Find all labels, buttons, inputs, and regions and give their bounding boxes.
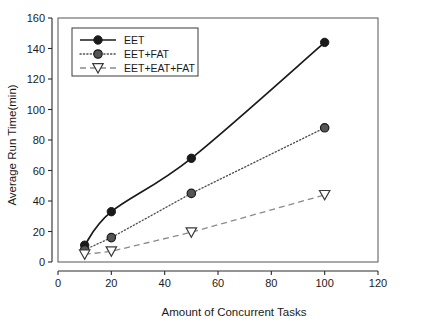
data-point-marker (320, 124, 328, 132)
x-tick-label: 0 (55, 277, 61, 289)
x-tick-label: 80 (265, 277, 277, 289)
legend-label: EET+FAT (124, 48, 170, 60)
y-tick-label: 100 (27, 104, 45, 116)
data-point-marker (319, 190, 329, 199)
data-point-marker (107, 207, 115, 215)
y-tick-label: 80 (33, 134, 45, 146)
y-tick-label: 120 (27, 73, 45, 85)
series-markers-3 (79, 190, 329, 259)
x-tick-label: 60 (212, 277, 224, 289)
data-point-marker (94, 50, 102, 58)
y-tick-label: 0 (39, 256, 45, 268)
chart-figure: 020406080100120140160 020406080100120 EE… (0, 0, 427, 324)
x-tick-label: 100 (315, 277, 333, 289)
y-axis: 020406080100120140160 (27, 12, 52, 268)
y-tick-label: 60 (33, 165, 45, 177)
x-tick-label: 20 (105, 277, 117, 289)
legend-item-3[interactable]: EET+EAT+FAT (80, 62, 195, 74)
legend: EETEET+FATEET+EAT+FAT (72, 28, 198, 76)
line-chart: 020406080100120140160 020406080100120 EE… (0, 0, 427, 324)
series-markers-2 (80, 124, 328, 254)
data-point-marker (320, 38, 328, 46)
data-point-marker (187, 189, 195, 197)
y-tick-label: 20 (33, 226, 45, 238)
x-axis-title: Amount of Concurrent Tasks (162, 306, 307, 318)
data-point-marker (187, 154, 195, 162)
y-tick-label: 140 (27, 43, 45, 55)
y-tick-label: 40 (33, 195, 45, 207)
y-axis-title: Average Run Time(min) (6, 84, 18, 205)
x-tick-label: 40 (159, 277, 171, 289)
data-point-marker (79, 250, 89, 259)
y-tick-label: 160 (27, 12, 45, 24)
series-line-2 (85, 128, 325, 250)
data-point-marker (94, 36, 102, 44)
x-axis: 020406080100120 (55, 271, 387, 289)
data-point-marker (107, 233, 115, 241)
x-tick-label: 120 (369, 277, 387, 289)
series-line-3 (85, 195, 325, 254)
legend-label: EET+EAT+FAT (124, 62, 195, 74)
legend-label: EET (124, 34, 145, 46)
